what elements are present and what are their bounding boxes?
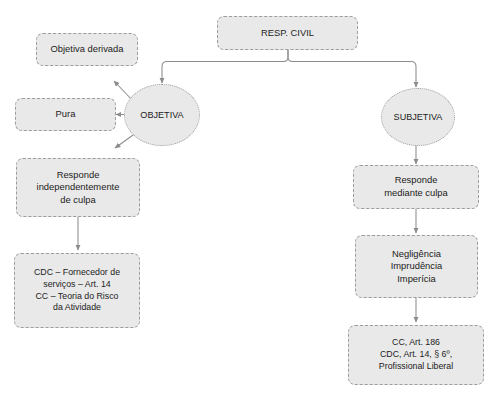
node-cdc-cc-objetiva[interactable]: CDC – Fornecedor de serviços – Art. 14 C… xyxy=(14,253,140,328)
node-cc-cdc-subjetiva-line-0: CC, Art. 186 xyxy=(392,337,440,349)
node-culpa-modalidades[interactable]: Negligência Imprudência Imperícia xyxy=(355,235,478,298)
node-responde-mediante-culpa[interactable]: Responde mediante culpa xyxy=(353,165,479,209)
node-responde-independentemente-line-2: de culpa xyxy=(60,194,95,207)
node-responde-independentemente-line-1: independentemente xyxy=(37,181,120,194)
node-objetiva[interactable]: OBJETIVA xyxy=(124,84,200,146)
node-pura-line-0: Pura xyxy=(56,108,76,121)
node-responde-mediante-culpa-line-1: mediante culpa xyxy=(384,187,448,200)
node-objetiva-line-0: OBJETIVA xyxy=(140,109,183,121)
node-objetiva-derivada-line-0: Objetiva derivada xyxy=(51,43,124,56)
node-culpa-modalidades-line-1: Imprudência xyxy=(391,260,443,273)
node-cdc-cc-objetiva-line-0: CDC – Fornecedor de xyxy=(34,267,120,279)
node-cc-cdc-subjetiva-line-2: Profissional Liberal xyxy=(379,361,453,373)
edge-resp-civil-to-subjetiva xyxy=(288,50,416,87)
node-subjetiva-line-0: SUBJETIVA xyxy=(394,111,443,123)
node-cc-cdc-subjetiva-line-1: CDC, Art. 14, § 6º, xyxy=(380,349,452,361)
node-objetiva-derivada[interactable]: Objetiva derivada xyxy=(36,33,138,66)
node-subjetiva[interactable]: SUBJETIVA xyxy=(381,88,455,146)
node-cdc-cc-objetiva-line-1: serviços – Art. 14 xyxy=(43,279,110,291)
node-culpa-modalidades-line-2: Imperícia xyxy=(397,273,436,286)
diagram-canvas: RESP. CIVIL OBJETIVA SUBJETIVA Objetiva … xyxy=(0,0,498,393)
node-responde-independentemente[interactable]: Responde independentemente de culpa xyxy=(16,158,140,217)
node-pura[interactable]: Pura xyxy=(15,98,116,131)
node-culpa-modalidades-line-0: Negligência xyxy=(392,248,441,261)
node-resp-civil[interactable]: RESP. CIVIL xyxy=(217,16,358,50)
edge-resp-civil-to-objetiva xyxy=(162,50,288,83)
node-cc-cdc-subjetiva[interactable]: CC, Art. 186 CDC, Art. 14, § 6º, Profiss… xyxy=(348,325,484,385)
node-responde-mediante-culpa-line-0: Responde xyxy=(395,174,438,187)
node-cdc-cc-objetiva-line-2: CC – Teoria do Risco xyxy=(36,291,119,303)
node-cdc-cc-objetiva-line-3: da Atividade xyxy=(53,302,101,314)
node-responde-independentemente-line-0: Responde xyxy=(57,169,100,182)
node-resp-civil-line-0: RESP. CIVIL xyxy=(261,27,314,40)
